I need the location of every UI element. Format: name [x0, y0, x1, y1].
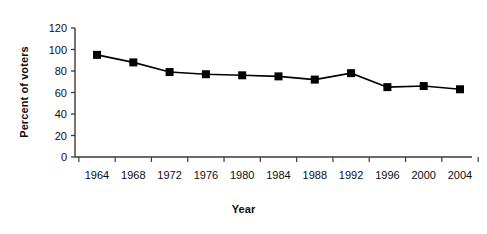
x-tick-label: 1972 — [157, 169, 181, 181]
data-point-marker — [202, 70, 210, 78]
data-point-marker — [311, 76, 319, 84]
y-axis-tick-labels: 020406080100120 — [49, 22, 67, 163]
data-point-marker — [93, 51, 101, 59]
data-point-marker — [456, 85, 464, 93]
plot-area: 020406080100120 196419681972197619801984… — [0, 0, 487, 234]
x-tick-label: 2000 — [411, 169, 435, 181]
x-tick-label: 2004 — [448, 169, 472, 181]
data-point-marker — [129, 58, 137, 66]
y-tick-label: 80 — [55, 65, 67, 77]
y-tick-label: 60 — [55, 87, 67, 99]
data-point-marker — [166, 68, 174, 76]
y-tick-label: 40 — [55, 108, 67, 120]
x-tick-label: 1996 — [375, 169, 399, 181]
x-tick-label: 1992 — [339, 169, 363, 181]
x-tick-label: 1988 — [303, 169, 327, 181]
data-point-marker — [420, 82, 428, 90]
x-tick-label: 1980 — [230, 169, 254, 181]
data-point-marker — [383, 83, 391, 91]
x-tick-label: 1976 — [194, 169, 218, 181]
y-tick-label: 20 — [55, 130, 67, 142]
data-point-marker — [238, 71, 246, 79]
x-axis-tick-marks — [79, 157, 478, 162]
y-tick-label: 120 — [49, 22, 67, 34]
x-tick-label: 1964 — [85, 169, 109, 181]
y-tick-label: 100 — [49, 44, 67, 56]
voter-turnout-line-chart: Percent of voters Year 020406080100120 1… — [0, 0, 487, 234]
x-axis-tick-labels: 1964196819721976198019841988199219962000… — [85, 169, 472, 181]
x-tick-label: 1984 — [266, 169, 290, 181]
data-series-line — [97, 55, 460, 89]
data-point-marker — [275, 72, 283, 80]
x-tick-label: 1968 — [121, 169, 145, 181]
data-point-marker — [347, 69, 355, 77]
y-tick-label: 0 — [61, 151, 67, 163]
